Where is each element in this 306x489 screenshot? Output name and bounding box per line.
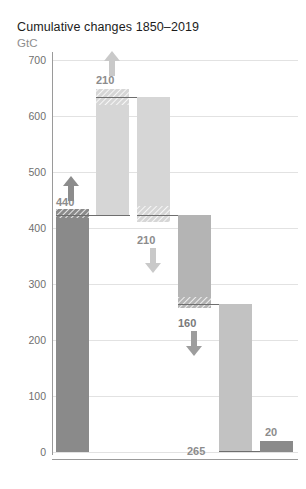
chart-plot-area: 0 100 200 300 400 500 600 700 bbox=[0, 0, 306, 489]
tick-label-500: 500 bbox=[28, 166, 46, 178]
bar-value-label-210-up: 210 bbox=[96, 74, 114, 86]
bar-uncertainty-hatch-210-down bbox=[137, 206, 170, 222]
bar-value-label-210-down: 210 bbox=[137, 234, 155, 246]
down-arrow-icon-210-down bbox=[145, 248, 161, 273]
bar-rect-210-down[interactable] bbox=[137, 97, 170, 215]
bar-value-label-160: 160 bbox=[178, 317, 196, 329]
bar-uncertainty-hatch-160 bbox=[178, 297, 211, 308]
bar-value-label-265: 265 bbox=[187, 445, 205, 457]
tick-label-600: 600 bbox=[28, 110, 46, 122]
bar-rect-160[interactable] bbox=[178, 215, 211, 304]
bar-value-label-20: 20 bbox=[265, 426, 277, 438]
bar-rect-265[interactable] bbox=[219, 304, 252, 452]
tick-label-200: 200 bbox=[28, 334, 46, 346]
tick-label-700: 700 bbox=[28, 54, 46, 66]
bar-uncertainty-hatch-440 bbox=[56, 209, 89, 218]
bar-group-1[interactable]: 440 bbox=[56, 176, 130, 452]
tick-label-100: 100 bbox=[28, 390, 46, 402]
bar-group-6[interactable]: 20 bbox=[260, 426, 293, 452]
tick-label-0: 0 bbox=[40, 446, 46, 458]
y-axis-tick-labels: 0 100 200 300 400 500 600 700 bbox=[28, 54, 46, 458]
waterfall-chart: Cumulative changes 1850–2019 GtC 0 100 2… bbox=[0, 0, 306, 489]
up-arrow-icon-210-up bbox=[104, 51, 120, 76]
bar-rect-440[interactable] bbox=[56, 215, 89, 452]
tick-label-400: 400 bbox=[28, 222, 46, 234]
tick-label-300: 300 bbox=[28, 278, 46, 290]
bar-rect-20[interactable] bbox=[260, 441, 293, 452]
bar-value-label-440: 440 bbox=[56, 196, 74, 208]
bar-rect-210-up[interactable] bbox=[96, 97, 129, 215]
down-arrow-icon-160 bbox=[186, 331, 202, 356]
